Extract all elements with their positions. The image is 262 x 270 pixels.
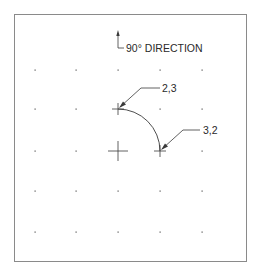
point-label-3-2: 3,2 <box>203 124 218 136</box>
up-arrow-icon <box>116 30 119 36</box>
point-label-2-3: 2,3 <box>162 82 177 94</box>
drawing-canvas: 90° DIRECTION 2,3 3,2 <box>0 0 262 270</box>
leader-3-2 <box>162 130 200 149</box>
center-cross <box>108 141 128 161</box>
direction-label: 90° DIRECTION <box>126 42 203 54</box>
arc <box>118 109 160 151</box>
leader-2-3 <box>120 88 160 107</box>
